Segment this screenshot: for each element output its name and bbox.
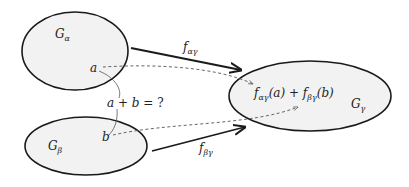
element-b: b — [102, 130, 110, 144]
question-label: a + b = ? — [107, 96, 164, 110]
element-a: a — [90, 61, 97, 75]
set-g-beta — [25, 117, 147, 175]
set-g-alpha — [22, 12, 128, 90]
map-label-alpha-gamma: fαγ — [182, 40, 198, 56]
set-mapping-diagram: Gα Gβ Gγ a b a + b = ? fαγ fβγ fαγ(a) + … — [0, 0, 409, 187]
map-label-beta-gamma: fβγ — [198, 141, 213, 157]
